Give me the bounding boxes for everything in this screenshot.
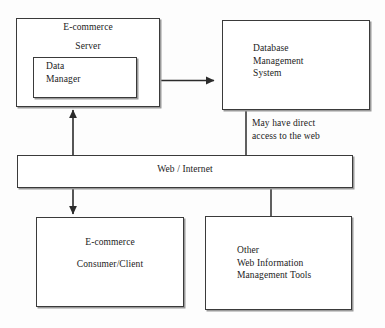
node-other-web-information-management-tools-label: Other Web Information Management Tools	[237, 244, 377, 282]
node-web-internet-label: Web / Internet	[17, 163, 353, 176]
diagram-canvas: E-commerce Server Data Manager Database …	[0, 0, 385, 328]
node-ecommerce-server-title: E-commerce	[16, 21, 160, 34]
node-ecommerce-server-subtitle: Server	[16, 40, 160, 53]
node-ecommerce-consumer-title: E-commerce	[36, 236, 184, 249]
node-database-management-system-label: Database Management System	[253, 42, 373, 80]
node-data-manager-label: Data Manager	[46, 60, 136, 85]
node-ecommerce-consumer-subtitle: Consumer/Client	[36, 258, 184, 271]
annotation-direct-web-access: May have direct access to the web	[252, 117, 382, 142]
